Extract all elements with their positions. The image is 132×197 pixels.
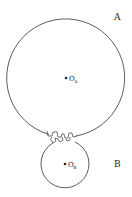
gear-a-label: A xyxy=(113,12,121,22)
gear-b xyxy=(41,142,89,188)
gear-b-center-sub: B xyxy=(74,165,77,170)
gear-diagram: A B O A O B xyxy=(0,0,132,197)
gear-teeth-mesh xyxy=(47,131,77,143)
gear-a-center-dot xyxy=(65,77,68,80)
gear-b-center-dot xyxy=(64,163,67,166)
gear-a-center-sub: A xyxy=(74,79,78,84)
gear-a xyxy=(7,19,125,136)
gear-b-label: B xyxy=(114,159,121,169)
